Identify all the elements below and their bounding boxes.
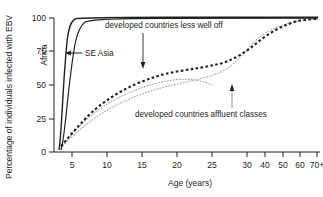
series-se-asia xyxy=(61,18,318,150)
x-axis-title: Age (years) xyxy=(168,178,212,188)
series-label-africa: Africa xyxy=(40,44,49,65)
y-tick-label: 50 xyxy=(37,80,47,90)
y-axis-tick-labels: 100 75 50 25 0 xyxy=(32,13,46,157)
x-tick-label: 60 xyxy=(295,160,305,170)
y-tick-label: 25 xyxy=(37,114,47,124)
x-tick-label: 10 xyxy=(102,160,112,170)
y-tick-label: 100 xyxy=(32,13,46,23)
series-developed-less-well-off xyxy=(61,19,318,146)
series-africa xyxy=(59,17,318,150)
x-tick-label: 70+ xyxy=(310,160,323,170)
x-tick-label: 5 xyxy=(70,160,75,170)
series-developed-affluent-tail xyxy=(61,19,318,148)
y-tick-label: 0 xyxy=(41,147,46,157)
series-label-se-asia: SE Asia xyxy=(85,49,114,58)
ebv-seroprevalence-chart: 100 75 50 25 0 5 10 15 20 25 30 40 xyxy=(0,0,323,197)
x-tick-label: 50 xyxy=(278,160,288,170)
annotation-se-asia: SE Asia xyxy=(65,49,114,58)
y-axis-ticks xyxy=(49,18,54,152)
x-tick-label: 30 xyxy=(242,160,252,170)
annotation-label-affluent-classes: developed countries affluent classes xyxy=(135,110,267,119)
annotation-less-well-off: developed countries less well off xyxy=(105,21,223,69)
x-tick-label: 40 xyxy=(260,160,270,170)
x-tick-label: 15 xyxy=(137,160,147,170)
annotation-label-less-well-off: developed countries less well off xyxy=(105,21,223,30)
chart-container: 100 75 50 25 0 5 10 15 20 25 30 40 xyxy=(0,0,323,197)
x-axis-tick-labels: 5 10 15 20 25 30 40 50 60 70+ xyxy=(70,160,323,170)
x-tick-label: 20 xyxy=(172,160,182,170)
x-tick-label: 25 xyxy=(207,160,217,170)
y-axis-title: Percentage of individuals infected with … xyxy=(4,15,14,179)
x-axis-ticks xyxy=(72,152,317,157)
